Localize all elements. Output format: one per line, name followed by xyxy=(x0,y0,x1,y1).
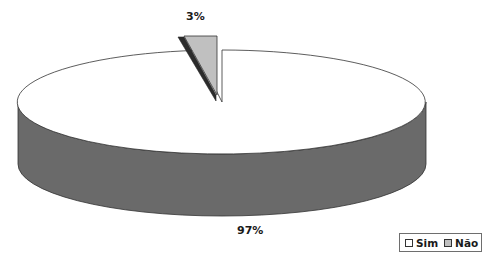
legend-item-nao[interactable]: Não xyxy=(444,237,478,249)
legend-swatch-nao xyxy=(444,239,452,247)
data-label-nao: 3% xyxy=(186,10,205,23)
pie-slice-sim[interactable] xyxy=(17,50,425,154)
data-label-sim: 97% xyxy=(237,224,263,237)
legend-label-nao: Não xyxy=(455,237,478,249)
legend: Sim Não xyxy=(399,233,482,252)
legend-label-sim: Sim xyxy=(416,237,438,249)
legend-swatch-sim xyxy=(405,239,413,247)
legend-item-sim[interactable]: Sim xyxy=(405,237,438,249)
